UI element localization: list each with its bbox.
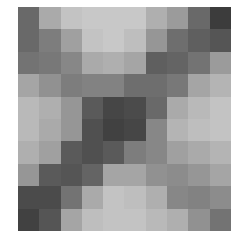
pixel-cell	[39, 97, 60, 119]
pixel-cell	[210, 186, 231, 208]
pixel-cell	[188, 186, 209, 208]
pixel-cell	[210, 141, 231, 163]
pixel-cell	[18, 164, 39, 186]
pixel-cell	[61, 186, 82, 208]
pixel-cell	[167, 52, 188, 74]
pixel-cell	[167, 74, 188, 96]
pixel-cell	[39, 29, 60, 51]
pixel-cell	[61, 209, 82, 231]
pixel-cell	[103, 52, 124, 74]
pixel-cell	[167, 141, 188, 163]
pixel-cell	[103, 209, 124, 231]
pixel-cell	[39, 7, 60, 29]
pixel-cell	[61, 164, 82, 186]
pixel-cell	[167, 97, 188, 119]
pixel-cell	[146, 209, 167, 231]
pixel-cell	[210, 209, 231, 231]
pixel-cell	[124, 29, 145, 51]
pixel-cell	[146, 97, 167, 119]
pixel-cell	[210, 97, 231, 119]
pixel-cell	[103, 29, 124, 51]
pixel-cell	[61, 52, 82, 74]
pixel-cell	[210, 74, 231, 96]
pixel-cell	[82, 7, 103, 29]
pixel-cell	[39, 209, 60, 231]
pixel-cell	[82, 119, 103, 141]
pixel-cell	[18, 74, 39, 96]
pixel-cell	[167, 209, 188, 231]
pixel-cell	[167, 7, 188, 29]
pixel-cell	[18, 209, 39, 231]
pixel-cell	[146, 141, 167, 163]
pixel-cell	[82, 97, 103, 119]
pixel-cell	[146, 74, 167, 96]
pixel-cell	[188, 119, 209, 141]
pixel-cell	[18, 119, 39, 141]
pixel-cell	[167, 186, 188, 208]
pixel-cell	[82, 164, 103, 186]
pixel-cell	[39, 186, 60, 208]
pixel-cell	[61, 7, 82, 29]
pixel-cell	[188, 52, 209, 74]
pixel-cell	[188, 7, 209, 29]
pixel-cell	[18, 141, 39, 163]
pixel-cell	[210, 7, 231, 29]
pixel-cell	[61, 29, 82, 51]
pixel-cell	[124, 164, 145, 186]
pixel-cell	[103, 97, 124, 119]
pixel-cell	[167, 164, 188, 186]
pixel-cell	[39, 52, 60, 74]
pixel-cell	[18, 29, 39, 51]
pixel-cell	[124, 209, 145, 231]
pixel-cell	[39, 119, 60, 141]
pixel-cell	[124, 119, 145, 141]
pixel-cell	[18, 97, 39, 119]
pixel-cell	[146, 7, 167, 29]
pixel-cell	[167, 119, 188, 141]
pixel-cell	[124, 74, 145, 96]
pixel-cell	[18, 52, 39, 74]
pixel-cell	[210, 52, 231, 74]
pixel-cell	[210, 119, 231, 141]
pixel-cell	[61, 74, 82, 96]
pixel-cell	[82, 186, 103, 208]
pixel-cell	[124, 52, 145, 74]
pixel-cell	[39, 141, 60, 163]
pixel-cell	[124, 7, 145, 29]
pixel-cell	[103, 74, 124, 96]
pixel-cell	[18, 186, 39, 208]
pixel-cell	[103, 141, 124, 163]
pixel-cell	[103, 164, 124, 186]
pixel-cell	[188, 97, 209, 119]
pixel-cell	[82, 29, 103, 51]
pixel-cell	[188, 141, 209, 163]
pixel-cell	[188, 164, 209, 186]
pixel-cell	[146, 29, 167, 51]
pixel-cell	[210, 164, 231, 186]
pixel-cell	[188, 74, 209, 96]
pixel-cell	[146, 164, 167, 186]
pixel-cell	[61, 141, 82, 163]
pixel-cell	[124, 186, 145, 208]
pixel-cell	[39, 74, 60, 96]
pixel-cell	[82, 141, 103, 163]
pixel-cell	[124, 97, 145, 119]
pixel-cell	[146, 52, 167, 74]
pixel-cell	[103, 7, 124, 29]
pixel-cell	[18, 7, 39, 29]
pixel-cell	[124, 141, 145, 163]
pixel-cell	[188, 29, 209, 51]
pixel-cell	[103, 186, 124, 208]
pixel-cell	[39, 164, 60, 186]
pixel-cell	[61, 119, 82, 141]
pixel-cell	[146, 186, 167, 208]
pixel-cell	[210, 29, 231, 51]
pixel-cell	[188, 209, 209, 231]
pixel-cell	[103, 119, 124, 141]
pixel-cell	[167, 29, 188, 51]
pixel-cell	[82, 209, 103, 231]
pixel-cell	[146, 119, 167, 141]
pixel-cell	[82, 74, 103, 96]
pixel-cell	[61, 97, 82, 119]
pixelated-grayscale-image	[18, 7, 231, 231]
